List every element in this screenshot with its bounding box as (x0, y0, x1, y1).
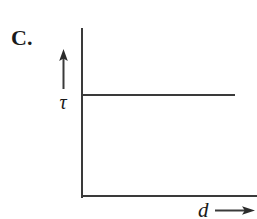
figure-panel-c: C. τ d line (0, 0, 257, 219)
right-arrow-icon (215, 202, 255, 215)
up-arrow-icon (58, 49, 69, 89)
y-axis-line (81, 28, 83, 198)
y-axis-label-tau: τ (52, 92, 74, 112)
x-axis-line (81, 195, 257, 197)
panel-label: C. (11, 27, 32, 49)
chart-type: line (0, 0, 1, 1)
data-series-line (82, 94, 235, 96)
x-axis-label-d: d (198, 200, 209, 219)
